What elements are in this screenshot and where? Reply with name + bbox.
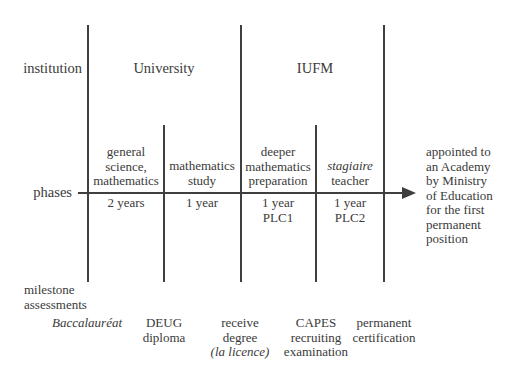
row-label-institution: institution	[0, 61, 82, 76]
duration-general-science: 2 years	[107, 196, 144, 211]
divider-capes	[315, 125, 317, 282]
milestone-capes: CAPES recruiting examination	[284, 316, 348, 360]
divider-university-start	[87, 25, 89, 282]
phase-deeper-mathematics: deeper mathematics preparation	[245, 145, 311, 189]
institution-university: University	[133, 61, 194, 76]
outcome-appointment: appointed to an Academy by Ministry of E…	[426, 145, 493, 247]
institution-iufm: IUFM	[297, 61, 333, 76]
timeline-axis	[78, 192, 404, 194]
milestone-deug: DEUG diploma	[143, 316, 186, 345]
duration-plc2: 1 year PLC2	[334, 196, 366, 225]
row-label-phases: phases	[0, 185, 72, 200]
divider-iufm-end	[383, 25, 385, 282]
divider-deug	[163, 125, 165, 282]
phase-mathematics-study: mathematics study	[169, 159, 235, 188]
milestone-licence: receive degree (la licence)	[211, 316, 270, 360]
phase-general-science: general science, mathematics	[93, 145, 159, 189]
duration-plc1: 1 year PLC1	[262, 196, 294, 225]
phase-stagiaire-teacher: stagiaire teacher	[327, 159, 373, 188]
row-label-milestone: milestone assessments	[0, 283, 84, 312]
arrow-head-icon	[402, 187, 416, 199]
duration-mathematics-study: 1 year	[186, 196, 218, 211]
milestone-permanent-certification: permanent certification	[353, 316, 416, 345]
divider-university-iufm	[240, 25, 242, 282]
milestone-baccalaureat: Baccalauréat	[52, 316, 122, 331]
